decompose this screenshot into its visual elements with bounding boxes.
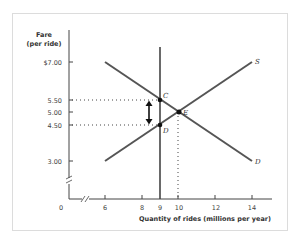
x-ticks: 0 6 8 9 10 12 14 bbox=[59, 195, 256, 212]
y-tick-label: 3.00 bbox=[48, 158, 62, 166]
y-tick-label: 5.50 bbox=[48, 97, 62, 105]
supply-demand-chart: Fare (per ride) $7.00 5.50 5.00 4.50 3.0… bbox=[0, 0, 298, 244]
y-tick-label: $7.00 bbox=[43, 59, 62, 67]
x-tick-label: 0 bbox=[59, 204, 63, 212]
x-axis bbox=[69, 196, 272, 202]
point-e bbox=[177, 110, 182, 115]
demand-label: D bbox=[254, 158, 261, 166]
point-c-label: C bbox=[163, 92, 169, 100]
x-axis-break-icon bbox=[81, 196, 89, 202]
x-tick-label: 9 bbox=[158, 204, 162, 212]
y-tick-label: 5.00 bbox=[48, 109, 62, 117]
x-tick-label: 12 bbox=[212, 204, 220, 212]
supply-label: S bbox=[255, 58, 260, 66]
point-e-label: E bbox=[182, 109, 188, 117]
y-axis-title-line2: (per ride) bbox=[27, 40, 62, 48]
point-d-label: D bbox=[162, 127, 169, 135]
y-axis bbox=[66, 30, 72, 199]
double-arrow-icon bbox=[146, 101, 153, 125]
x-tick-label: 10 bbox=[175, 204, 183, 212]
y-axis-title-line1: Fare bbox=[36, 31, 53, 39]
point-c bbox=[158, 98, 163, 103]
y-tick-label: 4.50 bbox=[48, 122, 62, 130]
x-tick-label: 6 bbox=[103, 204, 107, 212]
x-axis-title: Quantity of rides (millions per year) bbox=[139, 215, 271, 223]
x-tick-label: 14 bbox=[248, 204, 256, 212]
x-tick-label: 8 bbox=[140, 204, 144, 212]
point-d bbox=[158, 123, 163, 128]
